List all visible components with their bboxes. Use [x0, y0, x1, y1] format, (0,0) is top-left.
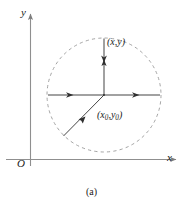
source-point-label: (x0,y0) [97, 110, 122, 122]
field-point-label: (x,y) [107, 37, 125, 47]
origin-label: O [17, 158, 25, 169]
figure-caption: (a) [0, 186, 183, 197]
y-axis-label: y [21, 7, 26, 18]
figure-container: y x O (x,y) (x0,y0) (a) [0, 0, 183, 209]
figure-drawing [0, 0, 183, 209]
source-point-open: (x [97, 109, 105, 120]
center-point [103, 94, 105, 96]
source-point-close: ) [119, 109, 122, 120]
x-axis-label: x [167, 152, 172, 163]
